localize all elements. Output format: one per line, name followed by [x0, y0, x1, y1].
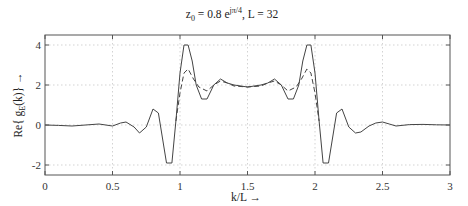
grid-lines [45, 35, 450, 175]
y-tick-label: 0 [36, 119, 42, 131]
y-tick-label: 2 [36, 79, 42, 91]
x-tick-label: 0.5 [106, 180, 120, 192]
x-tick-label: 3 [447, 180, 453, 192]
chart: z0 = 0.8 ejπ/4, L = 32 00.511.522.53-202… [0, 0, 468, 206]
chart-title: z0 = 0.8 ejπ/4, L = 32 [186, 6, 279, 23]
x-tick-label: 2.5 [376, 180, 390, 192]
y-tick-label: 4 [36, 39, 42, 51]
x-tick-label: 2 [312, 180, 318, 192]
y-tick-label: -2 [32, 159, 41, 171]
x-tick-label: 1 [177, 180, 183, 192]
axis-ticks: 00.511.522.53-2024 [32, 35, 453, 192]
x-axis-label: k/L → [231, 191, 261, 203]
y-axis-label: Re{ gE(k)} → [12, 72, 27, 137]
x-tick-label: 0 [42, 180, 48, 192]
